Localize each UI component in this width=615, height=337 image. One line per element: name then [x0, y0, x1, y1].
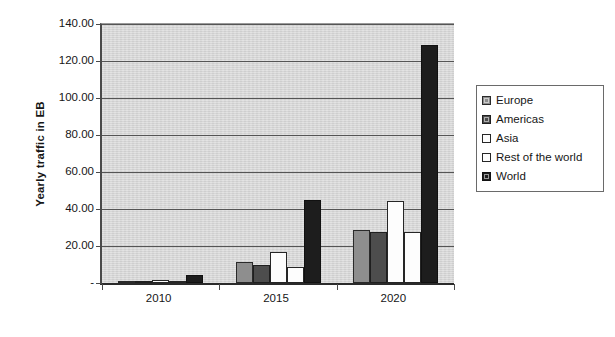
bar-europe-2020 [353, 230, 370, 283]
bars-layer [102, 24, 454, 283]
x-axis-tick-mark [219, 284, 220, 290]
legend-label: Americas [496, 113, 544, 126]
chart-legend: Europe Americas Asia Rest of the world W… [476, 85, 604, 192]
x-axis-tick-mark [102, 284, 103, 290]
bar-world-2020 [421, 45, 438, 283]
legend-item-europe: Europe [482, 91, 599, 110]
x-axis-tick-mark [454, 284, 455, 290]
y-axis-tick-labels: 140.00120.00100.0080.0060.0040.0020.00- [28, 17, 94, 289]
y-axis-tick-label: 100.00 [28, 91, 94, 104]
bar-world-2010 [186, 275, 203, 283]
legend-swatch-icon [482, 172, 491, 181]
y-axis-tick-mark [96, 209, 102, 210]
plot-area [100, 23, 454, 283]
legend-swatch-icon [482, 153, 491, 162]
legend-label: Europe [496, 94, 533, 107]
x-axis-tick-mark [337, 284, 338, 290]
legend-label: Asia [496, 132, 518, 145]
legend-label: World [496, 170, 526, 183]
y-axis-tick-label: 120.00 [28, 54, 94, 67]
bar-europe-2015 [236, 262, 253, 283]
legend-item-asia: Asia [482, 129, 599, 148]
y-axis-tick-mark [96, 172, 102, 173]
y-axis-tick-label: - [28, 276, 94, 289]
x-axis-tick-label: 2015 [263, 292, 289, 304]
legend-item-rest-of-the-world: Rest of the world [482, 148, 599, 167]
y-axis-tick-label: 40.00 [28, 202, 94, 215]
y-axis-tick-mark [96, 98, 102, 99]
legend-item-world: World [482, 167, 599, 186]
y-axis-tick-mark [96, 24, 102, 25]
x-axis-tick-label: 2010 [146, 292, 172, 304]
bar-chart: Yearly traffic in EB 140.00120.00100.008… [0, 0, 615, 337]
y-axis-tick-label: 60.00 [28, 165, 94, 178]
y-axis-tick-label: 140.00 [28, 17, 94, 30]
y-axis-tick-label: 80.00 [28, 128, 94, 141]
legend-label: Rest of the world [496, 151, 582, 164]
bar-asia-2020 [387, 201, 404, 283]
y-axis-tick-mark [96, 135, 102, 136]
x-axis-tick-labels: 201020152020 [100, 292, 452, 312]
x-axis-tick-label: 2020 [381, 292, 407, 304]
bar-americas-2015 [253, 265, 270, 284]
legend-swatch-icon [482, 115, 491, 124]
x-axis-line [100, 283, 454, 285]
bar-rest-of-the-world-2015 [287, 267, 304, 283]
bar-asia-2015 [270, 252, 287, 283]
bar-rest-of-the-world-2020 [404, 232, 421, 283]
y-axis-tick-mark [96, 246, 102, 247]
bar-americas-2020 [370, 232, 387, 283]
legend-swatch-icon [482, 134, 491, 143]
y-axis-tick-label: 20.00 [28, 239, 94, 252]
legend-item-americas: Americas [482, 110, 599, 129]
bar-world-2015 [304, 200, 321, 283]
legend-swatch-icon [482, 96, 491, 105]
y-axis-tick-mark [96, 61, 102, 62]
